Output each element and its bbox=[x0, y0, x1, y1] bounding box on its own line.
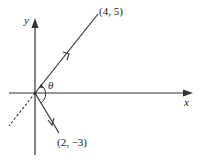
y-axis-arrow-icon bbox=[32, 18, 39, 28]
x-axis-label: x bbox=[184, 96, 189, 108]
angle-label: θ bbox=[48, 79, 53, 91]
vector-2-neg3-label: (2, −3) bbox=[57, 136, 87, 148]
vector-2-neg3 bbox=[35, 93, 59, 133]
origin-point bbox=[34, 92, 37, 95]
y-axis-label: y bbox=[24, 14, 29, 26]
diagram-canvas bbox=[0, 0, 200, 166]
vector-angle-diagram: y x θ (4, 5) (2, −3) bbox=[0, 0, 200, 166]
vector-4-5-label: (4, 5) bbox=[99, 5, 123, 17]
dashed-extension bbox=[9, 93, 35, 126]
